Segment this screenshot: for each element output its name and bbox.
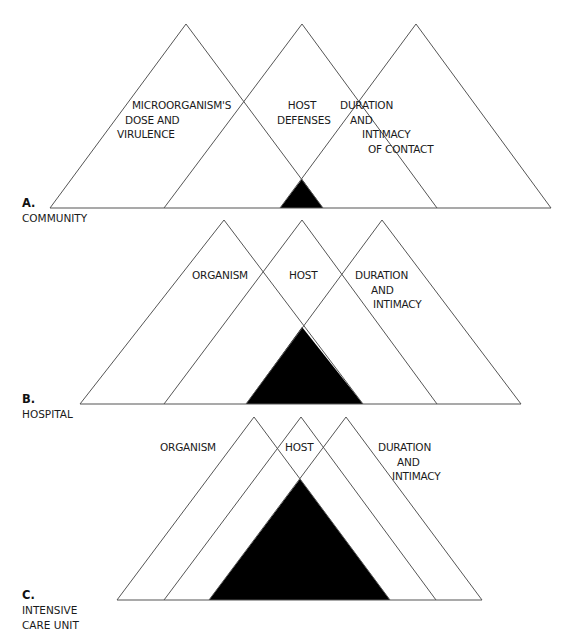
section-letter-a: A. bbox=[22, 196, 35, 210]
duration-label-b: DURATION AND INTIMACY bbox=[355, 268, 421, 312]
section-name-b: HOSPITAL bbox=[22, 407, 73, 422]
organism-label-c: ORGANISM bbox=[160, 440, 216, 455]
duration-label-a: DURATION AND INTIMACY OF CONTACT bbox=[340, 98, 433, 156]
section-name-c: INTENSIVE CARE UNIT bbox=[22, 603, 79, 632]
section-name-a: COMMUNITY bbox=[22, 211, 87, 226]
host-label-a: HOST DEFENSES bbox=[277, 98, 327, 127]
infection-risk-core-a bbox=[280, 179, 323, 208]
section-b-graphic bbox=[80, 220, 521, 404]
host-label-c: HOST bbox=[285, 440, 313, 455]
section-letter-b: B. bbox=[22, 392, 35, 406]
overlapping-triangles-diagram bbox=[0, 0, 576, 644]
organism-label-a: MICROORGANISM'S DOSE AND VIRULENCE bbox=[117, 98, 231, 142]
duration-label-c: DURATION AND INTIMACY bbox=[378, 440, 440, 484]
host-label-b: HOST bbox=[289, 268, 317, 283]
infection-risk-core-c bbox=[209, 479, 390, 600]
infection-risk-core-b bbox=[246, 327, 363, 404]
organism-label-b: ORGANISM bbox=[192, 268, 248, 283]
section-letter-c: C. bbox=[22, 588, 35, 602]
